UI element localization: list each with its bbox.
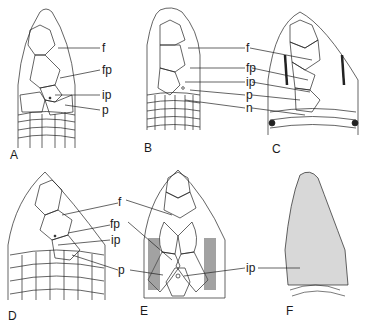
label-f-D: f	[118, 196, 121, 208]
head-C	[268, 12, 358, 135]
head-B	[147, 8, 200, 130]
label-f-B: f	[246, 42, 249, 54]
panel-label-C: C	[272, 143, 281, 155]
panel-label-E: E	[140, 305, 148, 317]
head-F	[285, 172, 348, 296]
panel-label-F: F	[286, 305, 293, 317]
label-n-B: n	[246, 102, 253, 114]
head-E	[144, 170, 225, 298]
label-p-B: p	[246, 89, 253, 101]
head-D	[8, 172, 105, 300]
label-ip-F: ip	[246, 262, 255, 274]
label-fp-A: fp	[102, 64, 112, 76]
label-p-D: p	[118, 264, 125, 276]
head-A	[18, 9, 75, 148]
panel-label-A: A	[10, 149, 18, 161]
label-ip-A: ip	[102, 89, 111, 101]
label-fp-B: fp	[246, 62, 256, 74]
label-ip-B: ip	[246, 76, 255, 88]
scale-diagram	[0, 0, 365, 329]
label-fp-D: fp	[110, 218, 120, 230]
panel-label-D: D	[8, 310, 17, 322]
label-p-A: p	[102, 104, 109, 116]
label-f-A: f	[102, 42, 105, 54]
panel-label-B: B	[144, 142, 152, 154]
label-ip-D: ip	[111, 234, 120, 246]
